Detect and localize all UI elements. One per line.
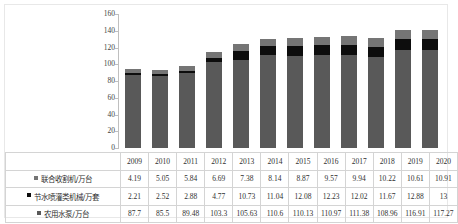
- table-cell-value: 87.7: [121, 205, 149, 223]
- x-axis-year-label: 2018: [373, 153, 401, 171]
- x-axis-year-label: 2017: [345, 153, 373, 171]
- series-name: 联合收割机/万台: [41, 175, 93, 184]
- y-axis-tick-label: 60: [91, 94, 115, 102]
- bar-slot[interactable]: [336, 14, 363, 148]
- bar-segment: [260, 39, 276, 46]
- bar-segment: [233, 51, 249, 60]
- table-cell-value: 110.97: [317, 205, 345, 223]
- bar-segment: [395, 50, 411, 148]
- y-axis-tick-label: 100: [91, 61, 115, 69]
- legend-row-label[interactable]: 联合收割机/万台: [6, 170, 121, 188]
- table-cell-value: 9.94: [345, 170, 373, 188]
- stacked-bar[interactable]: [341, 36, 357, 148]
- x-axis-year-label: 2013: [233, 153, 261, 171]
- harvester-swatch: [34, 176, 38, 180]
- table-cell-value: 2.21: [121, 188, 149, 206]
- bar-segment: [341, 45, 357, 55]
- table-cell-value: 12.08: [289, 188, 317, 206]
- bar-segment: [206, 62, 222, 149]
- stacked-bar[interactable]: [206, 52, 222, 148]
- bar-slot[interactable]: [390, 14, 417, 148]
- bar-segment: [125, 75, 141, 148]
- y-axis-tick-label: 140: [91, 27, 115, 35]
- pump-swatch: [37, 211, 41, 215]
- x-axis-year-label: 2012: [205, 153, 233, 171]
- stacked-bar[interactable]: [422, 30, 438, 148]
- data-table: 2009201020112012201320142015201620172018…: [5, 152, 458, 223]
- bar-slot[interactable]: [417, 14, 444, 148]
- bar-slot[interactable]: [363, 14, 390, 148]
- x-axis-year-label: 2020: [429, 153, 457, 171]
- x-axis-year-label: 2009: [121, 153, 149, 171]
- bar-slot[interactable]: [227, 14, 254, 148]
- table-cell-value: 5.84: [177, 170, 205, 188]
- stacked-bar[interactable]: [179, 66, 195, 148]
- stacked-bar[interactable]: [395, 30, 411, 148]
- table-cell-value: 4.77: [205, 188, 233, 206]
- table-row: 节水喷灌类机械/万套2.212.522.884.7710.7311.0412.0…: [6, 188, 458, 206]
- y-axis-tick-label: 40: [91, 111, 115, 119]
- table-cell-value: 108.96: [373, 205, 401, 223]
- bar-slot[interactable]: [254, 14, 281, 148]
- stacked-bar[interactable]: [152, 70, 168, 148]
- stacked-bar[interactable]: [125, 69, 141, 148]
- table-row: 农用水泵/万台87.785.589.48103.3105.63110.6110.…: [6, 205, 458, 223]
- table-header-row: 2009201020112012201320142015201620172018…: [6, 153, 458, 171]
- bar-slot[interactable]: [173, 14, 200, 148]
- bar-segment: [314, 45, 330, 55]
- table-cell-value: 10.61: [401, 170, 429, 188]
- stacked-bar[interactable]: [314, 37, 330, 148]
- bar-segment: [368, 57, 384, 148]
- bar-segment: [341, 55, 357, 148]
- table-cell-value: 117.27: [429, 205, 457, 223]
- bar-slot[interactable]: [119, 14, 146, 148]
- y-axis-tick-mark: [115, 81, 119, 82]
- bar-segment: [152, 76, 168, 148]
- bar-slot[interactable]: [282, 14, 309, 148]
- table-cell-value: 105.63: [233, 205, 261, 223]
- stacked-bar[interactable]: [233, 44, 249, 148]
- bar-segment: [422, 39, 438, 50]
- series-name: 农用水泵/万台: [44, 210, 89, 219]
- y-axis-tick-mark: [115, 115, 119, 116]
- y-axis-tick-labels: 020406080100120140160: [91, 14, 115, 147]
- x-axis-year-label: 2019: [401, 153, 429, 171]
- y-axis-tick-mark: [115, 148, 119, 149]
- table-cell-value: 2.88: [177, 188, 205, 206]
- data-table-body: 2009201020112012201320142015201620172018…: [6, 153, 458, 223]
- table-cell-value: 110.6: [261, 205, 289, 223]
- bar-segment: [395, 39, 411, 50]
- x-axis-year-label: 2010: [149, 153, 177, 171]
- table-cell-value: 2.52: [149, 188, 177, 206]
- y-axis-tick-mark: [115, 48, 119, 49]
- table-cell-value: 12.02: [345, 188, 373, 206]
- table-cell-value: 116.91: [401, 205, 429, 223]
- legend-row-label[interactable]: 节水喷灌类机械/万套: [6, 188, 121, 206]
- table-cell-value: 4.19: [121, 170, 149, 188]
- y-axis-tick-mark: [115, 131, 119, 132]
- stacked-bar[interactable]: [260, 39, 276, 148]
- table-cell-value: 10.22: [373, 170, 401, 188]
- y-axis-tick-label: 0: [91, 144, 115, 152]
- y-axis-tick-mark: [115, 31, 119, 32]
- table-cell-value: 85.5: [149, 205, 177, 223]
- bar-slot[interactable]: [309, 14, 336, 148]
- bar-segment: [395, 30, 411, 39]
- table-cell-value: 103.3: [205, 205, 233, 223]
- y-axis-tick-label: 120: [91, 44, 115, 52]
- y-axis-tick-mark: [115, 64, 119, 65]
- stacked-bar[interactable]: [368, 38, 384, 148]
- stacked-bar[interactable]: [287, 38, 303, 148]
- bar-slot[interactable]: [200, 14, 227, 148]
- bar-segment: [287, 38, 303, 45]
- plot-area: [119, 14, 444, 148]
- irrigation-swatch: [27, 193, 31, 197]
- bar-segment: [422, 50, 438, 148]
- bar-slot[interactable]: [146, 14, 173, 148]
- bar-segment: [314, 37, 330, 45]
- bar-segment: [314, 55, 330, 148]
- table-cell-value: 6.69: [205, 170, 233, 188]
- table-cell-value: 8.14: [261, 170, 289, 188]
- legend-row-label[interactable]: 农用水泵/万台: [6, 205, 121, 223]
- table-cell-value: 12.88: [401, 188, 429, 206]
